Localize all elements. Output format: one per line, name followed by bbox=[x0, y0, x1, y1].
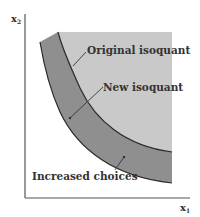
increased-pointer-dot bbox=[123, 156, 125, 158]
new-isoquant-label: New isoquant bbox=[103, 81, 183, 93]
new-pointer-dot bbox=[69, 117, 71, 119]
increased-choices-label: Increased choices bbox=[32, 170, 138, 182]
isoquant-diagram: x2 x1 Original isoquant New isoquant Inc… bbox=[0, 0, 200, 217]
x-axis-label: x1 bbox=[180, 202, 190, 214]
y-axis-label: x2 bbox=[11, 13, 21, 25]
original-isoquant-label: Original isoquant bbox=[87, 44, 190, 56]
